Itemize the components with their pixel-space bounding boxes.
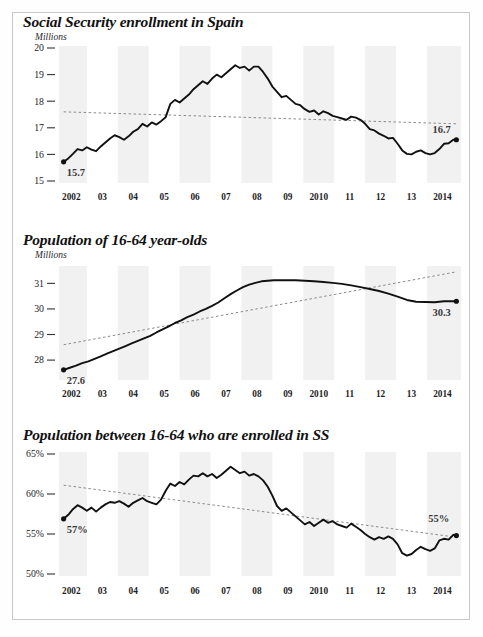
end-marker — [454, 299, 459, 304]
y-tick-label: 16 — [34, 149, 44, 160]
x-tick-label: 2002 — [62, 192, 81, 202]
y-tick-label: 60% — [26, 488, 44, 499]
y-tick-label: 18 — [34, 96, 44, 107]
x-tick-label: 06 — [190, 192, 200, 202]
chart-svg-1: 2019181716152002030405060708092010111213… — [13, 42, 469, 217]
x-tick-label: 05 — [159, 192, 169, 202]
y-tick-label: 30 — [34, 303, 44, 314]
y-tick-label: 55% — [26, 528, 44, 539]
panel-share-enrolled: Population between 16-64 who are enrolle… — [13, 426, 469, 620]
shaded-band — [180, 266, 211, 380]
x-tick-label: 2002 — [62, 389, 81, 399]
y-tick-label: 29 — [34, 329, 44, 340]
shaded-band — [118, 266, 149, 380]
chart-svg-3: 65%60%55%50%2002030405060708092010111213… — [13, 444, 469, 612]
x-tick-label: 12 — [376, 586, 386, 596]
y-tick-label: 19 — [34, 69, 44, 80]
x-tick-label: 2014 — [433, 586, 452, 596]
figure-frame: Social Security enrollment in Spain Mill… — [12, 12, 470, 620]
shaded-band — [118, 452, 149, 576]
y-tick-label: 28 — [34, 354, 44, 365]
start-marker — [61, 516, 66, 521]
figure-page: Social Security enrollment in Spain Mill… — [0, 0, 483, 637]
shaded-band — [365, 46, 396, 183]
x-tick-label: 07 — [221, 586, 231, 596]
shaded-band — [365, 452, 396, 576]
shaded-band — [365, 266, 396, 380]
x-tick-label: 03 — [98, 192, 108, 202]
y-tick-label: 17 — [34, 122, 44, 133]
panel-population-16-64: Population of 16-64 year-olds Millions 3… — [13, 231, 469, 426]
panel-unit-2: Millions — [13, 249, 469, 260]
shaded-band — [180, 452, 211, 576]
start-value-label: 57% — [67, 524, 88, 535]
x-tick-label: 2010 — [309, 586, 328, 596]
x-tick-label: 04 — [129, 586, 139, 596]
x-tick-label: 11 — [345, 586, 354, 596]
shaded-band — [427, 46, 461, 183]
y-tick-label: 50% — [26, 568, 44, 579]
x-tick-label: 2010 — [309, 192, 328, 202]
end-value-label: 30.3 — [432, 307, 450, 318]
x-tick-label: 08 — [252, 586, 262, 596]
y-tick-label: 15 — [34, 175, 44, 186]
x-tick-label: 08 — [252, 192, 262, 202]
x-tick-label: 05 — [159, 586, 169, 596]
x-tick-label: 04 — [129, 389, 139, 399]
chart-1: 2019181716152002030405060708092010111213… — [13, 42, 469, 217]
x-tick-label: 2002 — [62, 586, 81, 596]
x-tick-label: 09 — [283, 586, 293, 596]
x-tick-label: 07 — [221, 192, 231, 202]
x-tick-label: 13 — [407, 586, 417, 596]
y-tick-label: 20 — [34, 42, 44, 53]
x-tick-label: 12 — [376, 389, 386, 399]
x-tick-label: 04 — [129, 192, 139, 202]
panel-title-2: Population of 16-64 year-olds — [13, 231, 469, 249]
y-tick-label: 31 — [34, 278, 44, 289]
x-tick-label: 09 — [283, 389, 293, 399]
chart-svg-2: 3130292820020304050607080920101112132014… — [13, 260, 469, 412]
x-tick-label: 09 — [283, 192, 293, 202]
end-value-label: 55% — [428, 513, 449, 524]
x-tick-label: 11 — [345, 389, 354, 399]
x-tick-label: 06 — [190, 389, 200, 399]
shaded-band — [59, 452, 87, 576]
x-tick-label: 05 — [159, 389, 169, 399]
panel-unit-1: Millions — [13, 31, 469, 42]
start-marker — [61, 367, 66, 372]
x-tick-label: 2014 — [433, 192, 452, 202]
end-value-label: 16.7 — [432, 124, 450, 135]
shaded-band — [241, 452, 272, 576]
x-tick-label: 07 — [221, 389, 231, 399]
panel-title-1: Social Security enrollment in Spain — [13, 13, 469, 31]
start-value-label: 15.7 — [67, 167, 85, 178]
end-marker — [454, 137, 459, 142]
end-marker — [454, 533, 459, 538]
chart-3: 65%60%55%50%2002030405060708092010111213… — [13, 444, 469, 612]
x-tick-label: 2010 — [309, 389, 328, 399]
x-tick-label: 11 — [345, 192, 354, 202]
x-tick-label: 03 — [98, 586, 108, 596]
panel-title-3: Population between 16-64 who are enrolle… — [13, 426, 469, 444]
start-marker — [61, 159, 66, 164]
chart-2: 3130292820020304050607080920101112132014… — [13, 260, 469, 412]
x-tick-label: 03 — [98, 389, 108, 399]
shaded-band — [180, 46, 211, 183]
x-tick-label: 12 — [376, 192, 386, 202]
x-tick-label: 06 — [190, 586, 200, 596]
panel-social-security-enrollment: Social Security enrollment in Spain Mill… — [13, 13, 469, 231]
start-value-label: 27.6 — [67, 375, 85, 386]
x-tick-label: 13 — [407, 389, 417, 399]
shaded-band — [427, 266, 461, 380]
x-tick-label: 08 — [252, 389, 262, 399]
x-tick-label: 13 — [407, 192, 417, 202]
shaded-band — [303, 452, 334, 576]
y-tick-label: 65% — [26, 448, 44, 459]
x-tick-label: 2014 — [433, 389, 452, 399]
